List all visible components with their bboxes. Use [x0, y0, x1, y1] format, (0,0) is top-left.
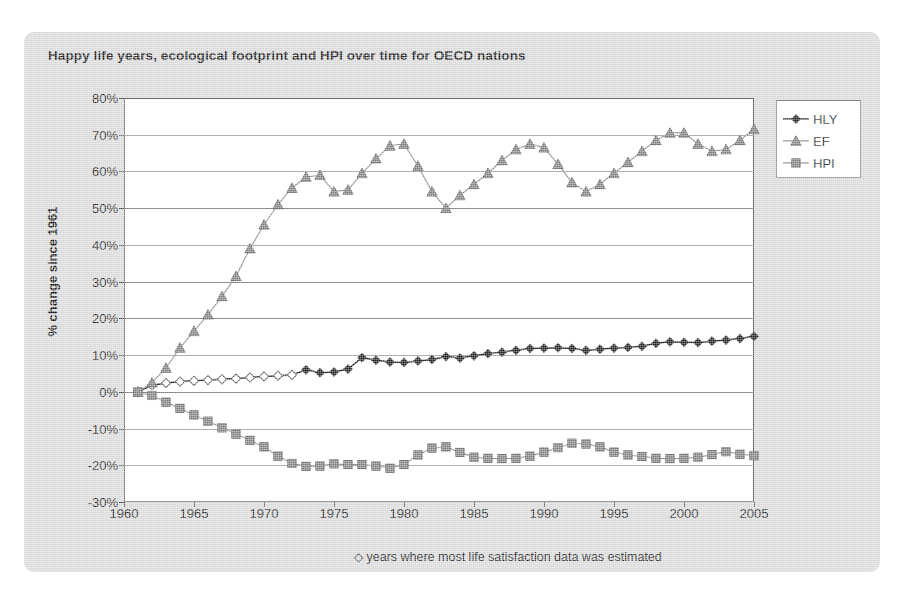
- x-tick-label: 1970: [224, 506, 304, 521]
- diamond-marker-icon: [783, 112, 809, 126]
- y-tick-label: 50%: [0, 201, 118, 216]
- y-tick-label: -10%: [0, 421, 118, 436]
- series-line: [138, 336, 754, 391]
- open-diamond-icon: ◇: [354, 550, 363, 564]
- series-hpi: [134, 388, 758, 473]
- x-tick-label: 1975: [294, 506, 374, 521]
- legend-item-hly[interactable]: HLY: [783, 108, 837, 130]
- square-marker-icon: [783, 156, 809, 170]
- legend-label: EF: [813, 135, 830, 148]
- x-tick-label: 1960: [84, 506, 164, 521]
- legend-item-ef[interactable]: EF: [783, 130, 830, 152]
- chart-title: Happy life years, ecological footprint a…: [48, 48, 526, 63]
- x-tick-label: 1995: [574, 506, 654, 521]
- x-tick-label: 2000: [644, 506, 724, 521]
- chart-figure: Happy life years, ecological footprint a…: [24, 32, 880, 572]
- x-tick-label: 1985: [434, 506, 514, 521]
- y-tick-label: 20%: [0, 311, 118, 326]
- legend-label: HPI: [813, 157, 835, 170]
- x-tick-label: 1965: [154, 506, 234, 521]
- legend-label: HLY: [813, 113, 837, 126]
- series-hly: [133, 332, 758, 397]
- plot-wrap: 80%70%60%50%40%30%20%10%0%-10%-20%-30% 1…: [124, 98, 754, 502]
- x-tick-label: 2005: [714, 506, 794, 521]
- triangle-marker-icon: [783, 134, 809, 148]
- series-line: [138, 392, 754, 468]
- series-layer: [124, 98, 754, 502]
- legend: HLYEFHPI: [776, 100, 861, 178]
- y-tick-label: 30%: [0, 274, 118, 289]
- x-tick-label: 1980: [364, 506, 444, 521]
- y-tick-label: -20%: [0, 458, 118, 473]
- footnote-text: years where most life satisfaction data …: [366, 550, 661, 564]
- x-tick-label: 1990: [504, 506, 584, 521]
- y-tick-label: 10%: [0, 348, 118, 363]
- y-tick-label: 40%: [0, 237, 118, 252]
- y-tick-label: 80%: [0, 91, 118, 106]
- legend-item-hpi[interactable]: HPI: [783, 152, 835, 174]
- y-tick-label: 60%: [0, 164, 118, 179]
- y-tick-label: 0%: [0, 384, 118, 399]
- y-tick-label: 70%: [0, 127, 118, 142]
- footnote: ◇ years where most life satisfaction dat…: [354, 550, 662, 564]
